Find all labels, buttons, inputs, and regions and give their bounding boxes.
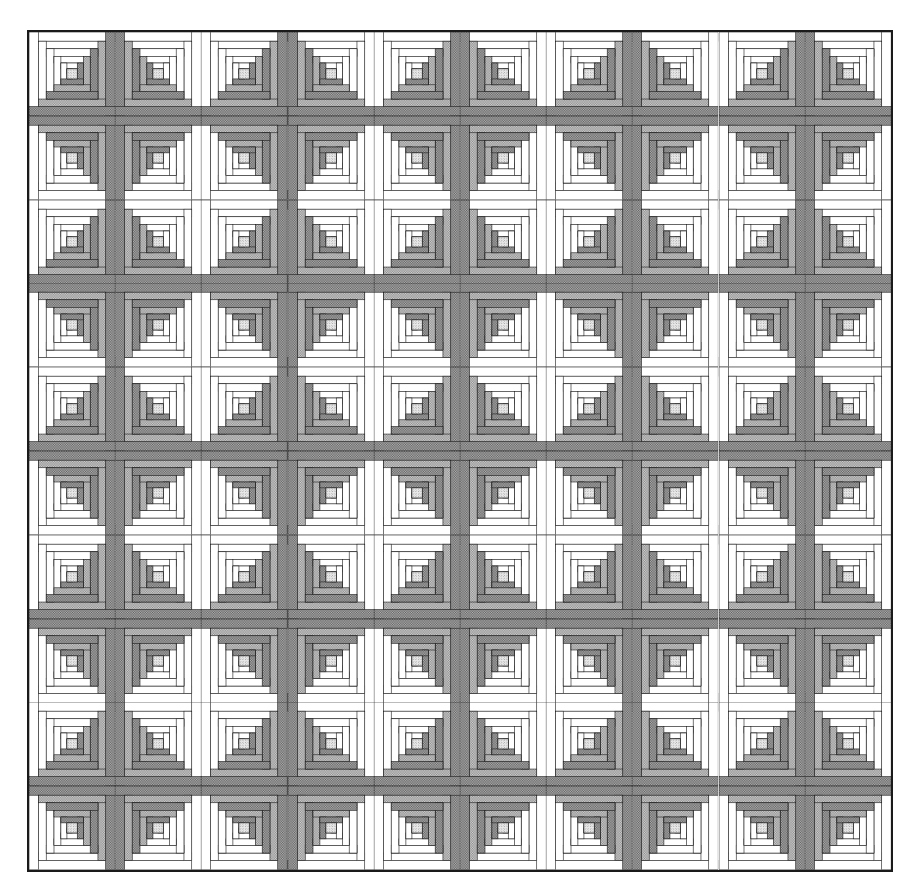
quilt-block — [288, 283, 374, 367]
quilt-block — [805, 283, 891, 367]
quilt-block — [546, 535, 632, 619]
quilt-block — [460, 619, 546, 703]
quilt-block — [460, 32, 546, 116]
quilt-block — [546, 619, 632, 703]
quilt-block — [374, 367, 460, 451]
quilt-block — [805, 116, 891, 200]
quilt-block — [805, 200, 891, 284]
quilt-block — [374, 619, 460, 703]
quilt-block — [632, 116, 718, 200]
quilt-block — [632, 702, 718, 786]
quilt-block — [115, 283, 201, 367]
quilt-block — [719, 786, 805, 870]
quilt-block — [201, 702, 287, 786]
quilt-canvas — [0, 0, 921, 895]
quilt-block — [460, 367, 546, 451]
quilt-block — [288, 367, 374, 451]
quilt-block — [632, 619, 718, 703]
quilt-block — [201, 116, 287, 200]
quilt-block — [29, 367, 115, 451]
quilt-block — [632, 200, 718, 284]
quilt-block — [805, 32, 891, 116]
quilt-block — [115, 702, 201, 786]
quilt-block — [805, 451, 891, 535]
quilt-block — [546, 32, 632, 116]
quilt-block — [201, 451, 287, 535]
quilt-block — [632, 786, 718, 870]
quilt-block — [201, 200, 287, 284]
quilt-block — [460, 451, 546, 535]
quilt-block — [29, 32, 115, 116]
quilt-block — [115, 786, 201, 870]
quilt-block — [805, 702, 891, 786]
quilt-block — [719, 200, 805, 284]
quilt-block — [546, 367, 632, 451]
quilt-block — [460, 702, 546, 786]
quilt-block — [719, 619, 805, 703]
quilt-block — [632, 283, 718, 367]
quilt-block — [632, 535, 718, 619]
quilt-block — [719, 451, 805, 535]
quilt-block — [115, 116, 201, 200]
quilt-block — [115, 619, 201, 703]
quilt-block — [719, 367, 805, 451]
quilt-block — [288, 451, 374, 535]
quilt-block — [288, 32, 374, 116]
quilt-block — [201, 535, 287, 619]
quilt-block — [374, 200, 460, 284]
quilt-block — [460, 535, 546, 619]
quilt-block — [719, 702, 805, 786]
quilt-block — [719, 283, 805, 367]
quilt-block — [805, 367, 891, 451]
quilt-block — [719, 535, 805, 619]
quilt-block — [115, 451, 201, 535]
quilt-block — [374, 786, 460, 870]
quilt-block — [29, 786, 115, 870]
quilt-block — [115, 200, 201, 284]
quilt-block — [201, 786, 287, 870]
quilt-block — [288, 702, 374, 786]
quilt-block — [460, 283, 546, 367]
quilt-block — [288, 535, 374, 619]
quilt-block-grid — [29, 32, 891, 870]
quilt-block — [374, 116, 460, 200]
quilt-block — [632, 367, 718, 451]
quilt-block — [460, 116, 546, 200]
quilt-block — [115, 367, 201, 451]
quilt-block — [632, 32, 718, 116]
quilt-block — [201, 283, 287, 367]
quilt-block — [201, 32, 287, 116]
quilt-block — [546, 702, 632, 786]
quilt-block — [29, 702, 115, 786]
quilt-block — [719, 116, 805, 200]
quilt-block — [288, 116, 374, 200]
quilt-block — [460, 786, 546, 870]
quilt-block — [805, 535, 891, 619]
quilt-block — [29, 200, 115, 284]
quilt-block — [288, 786, 374, 870]
quilt-block — [115, 535, 201, 619]
quilt-block — [374, 32, 460, 116]
quilt-block — [29, 619, 115, 703]
quilt-block — [546, 116, 632, 200]
quilt-block — [115, 32, 201, 116]
quilt-block — [374, 283, 460, 367]
quilt-block — [719, 32, 805, 116]
quilt-outer-border — [27, 30, 893, 872]
quilt-block — [29, 451, 115, 535]
quilt-block — [546, 200, 632, 284]
quilt-block — [632, 451, 718, 535]
quilt-block — [546, 283, 632, 367]
quilt-block — [546, 786, 632, 870]
quilt-block — [201, 367, 287, 451]
quilt-block — [460, 200, 546, 284]
quilt-block — [805, 786, 891, 870]
quilt-block — [374, 451, 460, 535]
quilt-block — [288, 200, 374, 284]
quilt-block — [805, 619, 891, 703]
quilt-block — [201, 619, 287, 703]
quilt-block — [29, 116, 115, 200]
quilt-block — [29, 283, 115, 367]
quilt-block — [29, 535, 115, 619]
quilt-block — [288, 619, 374, 703]
